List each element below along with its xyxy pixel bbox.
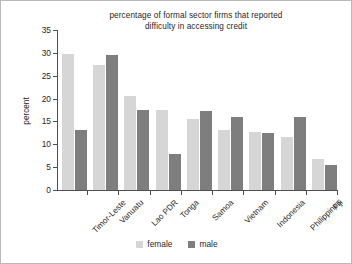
y-axis-line: [57, 30, 58, 191]
x-axis-label: Lao PDR: [150, 198, 180, 228]
chart-title: percentage of formal sector firms that r…: [57, 10, 335, 32]
y-tick-mark: [53, 76, 57, 77]
x-axis-label: Indonesia: [276, 198, 307, 229]
chart-figure: percentage of formal sector firms that r…: [0, 0, 352, 264]
bar-group: [281, 30, 306, 190]
bar-group: [124, 30, 149, 190]
y-tick-label: 10: [42, 139, 51, 149]
legend-item-male: male: [188, 239, 217, 249]
x-tick-mark: [150, 191, 151, 195]
x-axis-label: Samoa: [210, 198, 235, 223]
bar-male: [169, 154, 181, 190]
x-tick-mark: [212, 191, 213, 195]
bar-female: [249, 132, 261, 191]
x-tick-mark: [337, 191, 338, 195]
bar-male: [75, 130, 87, 190]
bar-female: [156, 110, 168, 190]
legend-swatch-female-icon: [136, 241, 143, 248]
chart-title-line-1: percentage of formal sector firms that r…: [57, 10, 335, 21]
bar-group: [187, 30, 212, 190]
y-tick-mark: [53, 53, 57, 54]
y-tick-label: 35: [42, 25, 51, 35]
x-tick-mark: [275, 191, 276, 195]
y-tick-label: 5: [46, 162, 51, 172]
y-tick-mark: [53, 190, 57, 191]
bar-group: [93, 30, 118, 190]
x-tick-mark: [87, 191, 88, 195]
legend-item-female: female: [136, 239, 172, 249]
legend-swatch-male-icon: [188, 241, 195, 248]
y-tick-mark: [53, 30, 57, 31]
x-tick-mark: [118, 191, 119, 195]
bar-group: [312, 30, 337, 190]
bar-male: [294, 117, 306, 190]
chart-legend: female male: [1, 239, 352, 249]
y-tick-label: 20: [42, 94, 51, 104]
x-tick-mark: [243, 191, 244, 195]
y-tick-label: 25: [42, 71, 51, 81]
y-tick-mark: [53, 99, 57, 100]
bar-male: [137, 110, 149, 190]
bar-female: [187, 119, 199, 190]
bar-male: [106, 55, 118, 190]
bar-female: [312, 159, 324, 190]
x-tick-mark: [181, 191, 182, 195]
plot-area: percent 05101520253035 Timor-LesteVanuat…: [57, 30, 338, 191]
bar-female: [281, 137, 293, 190]
x-axis-label: Tonga: [178, 198, 200, 220]
bar-female: [218, 130, 230, 190]
bar-female: [93, 65, 105, 190]
bar-group: [249, 30, 274, 190]
bar-male: [200, 111, 212, 190]
legend-label-female: female: [147, 239, 172, 249]
x-axis-label: Vietnam: [243, 198, 270, 225]
y-tick-mark: [53, 121, 57, 122]
bar-male: [325, 165, 337, 190]
x-tick-mark: [306, 191, 307, 195]
bar-female: [124, 96, 136, 190]
bar-group: [156, 30, 181, 190]
y-axis-title: percent: [22, 97, 31, 124]
y-tick-mark: [53, 167, 57, 168]
y-tick-label: 15: [42, 116, 51, 126]
y-tick-label: 30: [42, 48, 51, 58]
y-tick-label: 0: [46, 185, 51, 195]
bar-group: [62, 30, 87, 190]
bar-group: [218, 30, 243, 190]
bar-female: [62, 54, 74, 190]
bar-male: [262, 133, 274, 190]
bar-male: [231, 117, 243, 190]
x-axis-line: [57, 190, 338, 191]
y-tick-mark: [53, 144, 57, 145]
legend-label-male: male: [199, 239, 217, 249]
